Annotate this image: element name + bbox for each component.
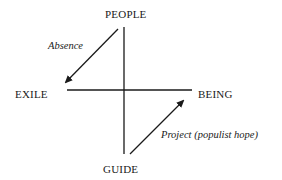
node-exile-label: EXILE [15,89,48,100]
edge-absence-label: Absence [48,41,83,52]
node-guide-label: GUIDE [103,164,138,175]
absence-arrow [66,29,118,82]
edge-project-label: Project (populist hope) [161,130,258,141]
node-being-label: BEING [198,89,233,100]
project-arrow [130,101,183,154]
node-people-label: PEOPLE [105,9,147,20]
